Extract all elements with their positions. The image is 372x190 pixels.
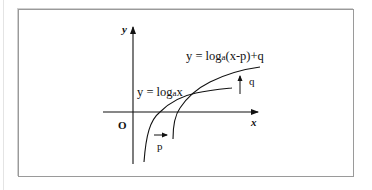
y-axis-label: y	[120, 23, 127, 35]
origin-label: O	[118, 119, 127, 131]
shifted-curve-label: y = loga(x-p)+q	[186, 49, 265, 63]
log-graph: y x O p q y = logax y = loga(x-p)+q	[0, 0, 372, 190]
q-shift-label: q	[249, 75, 255, 87]
x-axis-label: x	[250, 116, 257, 128]
shifted-curve	[173, 67, 260, 139]
p-shift-label: p	[157, 140, 163, 152]
base-curve-label: y = logax	[137, 85, 184, 99]
